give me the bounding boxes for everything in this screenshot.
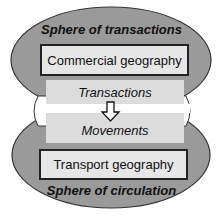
bottom-sphere-label: Sphere of circulation: [0, 183, 223, 198]
transport-geography-box: Transport geography: [39, 149, 188, 180]
